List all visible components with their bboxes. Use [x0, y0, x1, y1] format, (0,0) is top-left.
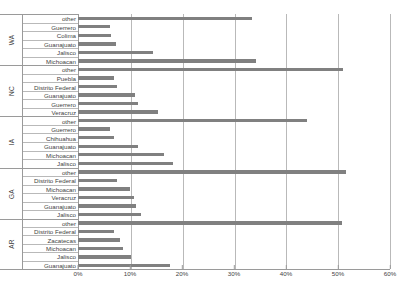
category-label: other — [23, 66, 78, 75]
x-tick-label: 40% — [280, 270, 292, 277]
bar-row — [78, 108, 390, 117]
category-label: other — [23, 15, 78, 24]
x-tick-label: 0% — [74, 270, 83, 277]
bar — [78, 136, 114, 139]
category-label: Jalisco — [23, 211, 78, 219]
bars-container — [78, 14, 390, 270]
bar-row — [78, 210, 390, 219]
bar — [78, 85, 117, 88]
group-label-ga: GA — [8, 189, 15, 199]
bar — [78, 145, 138, 148]
group-label-cell-ga: GA — [0, 169, 23, 219]
bar — [78, 179, 117, 182]
category-label-list: otherPueblaDistrito FederalGuanajuatoGue… — [23, 66, 78, 116]
category-label: Michoacan — [23, 58, 78, 66]
category-group-ga: GAotherDistrito FederalMichoacanVeracruz… — [0, 168, 78, 219]
bar — [78, 162, 173, 165]
bar — [78, 255, 131, 258]
bar — [78, 34, 111, 37]
bar-row — [78, 91, 390, 100]
category-label: Guerrero — [23, 24, 78, 33]
category-label: Distrito Federal — [23, 177, 78, 186]
category-label: Zacatecas — [23, 236, 78, 244]
bar — [78, 17, 252, 20]
bar — [78, 110, 158, 113]
bar-group-wa — [78, 14, 390, 65]
bar-row — [78, 142, 390, 151]
bar — [78, 170, 346, 173]
x-tick-mark — [182, 265, 183, 269]
x-tick-mark — [286, 265, 287, 269]
group-label-ia: IA — [8, 139, 15, 146]
category-label: Chihuahua — [23, 134, 78, 143]
x-tick-mark — [390, 265, 391, 269]
x-tick-mark — [234, 265, 235, 269]
category-label: Guanajuato — [23, 203, 78, 212]
bar-row — [78, 74, 390, 83]
bar-row — [78, 31, 390, 40]
category-group-wa: WAotherGuerreroColimaGuanajuatoJaliscoMi… — [0, 14, 78, 65]
bar-group-ia — [78, 116, 390, 167]
bar-row — [78, 116, 390, 125]
bar-row — [78, 99, 390, 108]
category-axis: WAotherGuerreroColimaGuanajuatoJaliscoMi… — [0, 14, 78, 270]
category-label: Guanajuato — [23, 41, 78, 50]
group-label-cell-ar: AR — [0, 220, 23, 269]
bar — [78, 230, 114, 233]
bar — [78, 25, 110, 28]
bar-row — [78, 133, 390, 142]
category-label: Michoacan — [23, 152, 78, 161]
bar — [78, 153, 164, 156]
bar-row — [78, 168, 390, 177]
bar-row — [78, 227, 390, 236]
category-label: Jalisco — [23, 49, 78, 58]
bar — [78, 93, 135, 96]
category-group-nc: NCotherPueblaDistrito FederalGuanajuatoG… — [0, 65, 78, 116]
bar — [78, 127, 110, 130]
category-label-list: otherDistrito FederalZacatecasMichoacanJ… — [23, 220, 78, 269]
group-label-ar: AR — [8, 240, 15, 249]
bar — [78, 187, 130, 190]
x-tick-mark — [338, 265, 339, 269]
category-label: other — [23, 169, 78, 178]
bar-row — [78, 151, 390, 160]
category-label: Veracruz — [23, 194, 78, 203]
category-group-ia: IAotherGuerreroChihuahuaGuanajuatoMichoa… — [0, 116, 78, 167]
bar — [78, 238, 120, 241]
category-label-list: otherGuerreroColimaGuanajuatoJaliscoMich… — [23, 15, 78, 65]
bar — [78, 264, 170, 267]
x-tick-label: 10% — [124, 270, 136, 277]
bar — [78, 102, 138, 105]
bar-row — [78, 253, 390, 262]
category-group-ar: ARotherDistrito FederalZacatecasMichoaca… — [0, 219, 78, 270]
bar-row — [78, 23, 390, 32]
category-label: other — [23, 117, 78, 126]
bar-row — [78, 125, 390, 134]
category-label: Michoacan — [23, 186, 78, 195]
category-label: Michoacan — [23, 245, 78, 253]
group-label-cell-wa: WA — [0, 15, 23, 65]
category-label: Colima — [23, 32, 78, 41]
bar-row — [78, 236, 390, 245]
category-label: Guerrero — [23, 126, 78, 135]
bar-row — [78, 193, 390, 202]
category-label: Jalisco — [23, 253, 78, 261]
category-label: Jalisco — [23, 160, 78, 168]
bar — [78, 119, 307, 122]
category-label: Puebla — [23, 75, 78, 84]
bar-row — [78, 14, 390, 23]
x-tick-label: 30% — [228, 270, 240, 277]
bar-row — [78, 202, 390, 211]
x-tick-label: 60% — [384, 270, 396, 277]
bar-group-ar — [78, 219, 390, 270]
x-tick-mark — [130, 265, 131, 269]
bar-row — [78, 159, 390, 168]
bar — [78, 213, 141, 216]
bar-row — [78, 176, 390, 185]
category-label: Veracruz — [23, 109, 78, 117]
category-label: Guanajuato — [23, 92, 78, 101]
bar — [78, 51, 153, 54]
bar — [78, 221, 342, 224]
bar-group-ga — [78, 168, 390, 219]
gridline-60% — [390, 14, 391, 269]
